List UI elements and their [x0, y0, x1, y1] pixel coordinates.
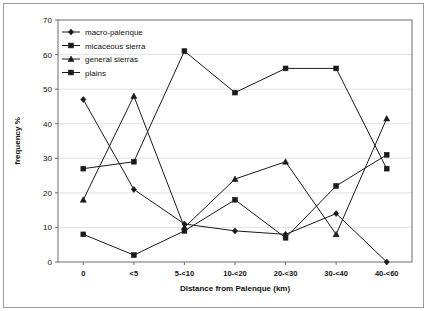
x-tick-label: 10-<20 [223, 269, 247, 278]
data-point [81, 97, 86, 103]
legend-label: macro-palenque [85, 28, 143, 37]
y-tick-label: 0 [48, 258, 53, 267]
data-point [283, 235, 288, 240]
series-micaceous-sierra [81, 152, 389, 257]
y-tick-label: 20 [43, 189, 52, 198]
data-point [233, 90, 238, 95]
data-point [81, 232, 86, 237]
legend: macro-palenquemicaceous sierrageneral si… [62, 28, 146, 78]
series-general-sierras [80, 93, 389, 237]
data-point [384, 116, 390, 121]
y-tick-label: 70 [43, 16, 52, 25]
legend-label: micaceous sierra [85, 42, 146, 51]
legend-marker [69, 43, 74, 48]
data-point [131, 186, 136, 192]
y-tick-label: 50 [43, 85, 52, 94]
y-tick-label: 60 [43, 51, 52, 60]
plot-container: 0102030405060700<55-<1010-<2020-<3030-<4… [0, 0, 427, 311]
chart-figure: 0102030405060700<55-<1010-<2020-<3030-<4… [0, 0, 427, 311]
y-tick-label: 30 [43, 154, 52, 163]
legend-marker [69, 70, 74, 75]
data-point [384, 152, 389, 157]
legend-label: general sierras [85, 55, 138, 64]
data-point [384, 166, 389, 171]
data-point [232, 228, 237, 234]
data-point [334, 66, 339, 71]
series-line [83, 155, 386, 255]
y-axis-title: frequency % [13, 117, 22, 165]
series-line [83, 51, 386, 169]
y-tick-label: 40 [43, 120, 52, 129]
legend-marker [68, 29, 73, 35]
series-line [83, 96, 386, 234]
x-tick-label: 0 [81, 269, 85, 278]
x-tick-label: 5-<10 [175, 269, 194, 278]
x-tick-label: <5 [130, 269, 139, 278]
x-tick-label: 20-<30 [274, 269, 298, 278]
data-point [80, 197, 86, 202]
x-tick-label: 40-<60 [375, 269, 399, 278]
data-point [131, 253, 136, 258]
data-point [131, 93, 137, 98]
data-point [283, 159, 289, 164]
line-chart: 0102030405060700<55-<1010-<2020-<3030-<4… [0, 0, 427, 311]
data-point [283, 66, 288, 71]
legend-label: plains [85, 69, 106, 78]
x-tick-label: 30-<40 [324, 269, 348, 278]
x-axis-title: Distance from Palenque (km) [180, 284, 291, 293]
y-tick-label: 10 [43, 223, 52, 232]
data-point [81, 166, 86, 171]
data-point [131, 159, 136, 164]
data-point [182, 49, 187, 54]
data-point [233, 197, 238, 202]
data-point [334, 184, 339, 189]
